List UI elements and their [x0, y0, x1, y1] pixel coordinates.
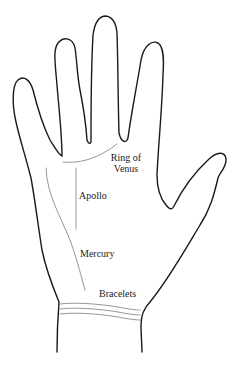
mercury-label: Mercury	[80, 248, 114, 259]
ring-of-venus-label: Ring of Venus	[108, 152, 144, 174]
mercury-line	[46, 168, 85, 290]
hand-outline	[13, 16, 226, 352]
hand-diagram	[0, 0, 237, 368]
apollo-label: Apollo	[79, 190, 107, 201]
ring-of-venus-label-line2: Venus	[108, 163, 144, 174]
bracelets-label: Bracelets	[99, 288, 136, 299]
bracelet-line-1	[60, 303, 140, 310]
ring-of-venus-label-line1: Ring of	[108, 152, 144, 163]
